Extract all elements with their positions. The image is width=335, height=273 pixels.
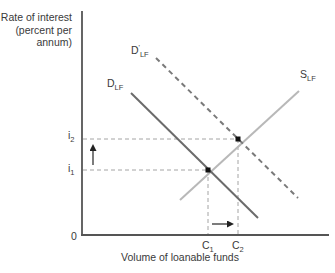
y-tick-i2: i2 <box>68 129 75 141</box>
demand-curve <box>131 93 258 218</box>
equilibrium-point-2 <box>236 137 241 142</box>
guide-lines <box>83 139 238 234</box>
supply-curve <box>180 91 299 200</box>
demand-curve-label: DLF <box>107 77 123 89</box>
y-tick-i1-sub: 1 <box>70 168 74 177</box>
supply-label-base: S <box>300 68 307 80</box>
x-tick-c1-base: C <box>202 239 210 251</box>
x-tick-c1: C1 <box>202 239 214 251</box>
y-tick-i1: i1 <box>68 162 75 174</box>
x-tick-c2-sub: 2 <box>240 245 244 254</box>
demand-label-sub: LF <box>115 83 124 92</box>
y-tick-i2-sub: 2 <box>70 135 74 144</box>
origin-label: 0 <box>71 230 77 242</box>
shifted-demand-curve-label: D'LF <box>131 44 149 56</box>
loanable-funds-diagram <box>0 0 335 273</box>
shifted-demand-label-sub: LF <box>140 50 149 59</box>
equilibrium-point-1 <box>206 168 211 173</box>
shifted-demand-curve <box>156 58 298 198</box>
x-tick-c2-base: C <box>232 239 240 251</box>
supply-label-sub: LF <box>307 74 316 83</box>
shifted-demand-label-base: D <box>131 44 139 56</box>
demand-label-base: D <box>107 77 115 89</box>
supply-curve-label: SLF <box>300 68 316 80</box>
x-tick-c2: C2 <box>232 239 244 251</box>
x-axis-label: Volume of loanable funds <box>121 251 239 263</box>
